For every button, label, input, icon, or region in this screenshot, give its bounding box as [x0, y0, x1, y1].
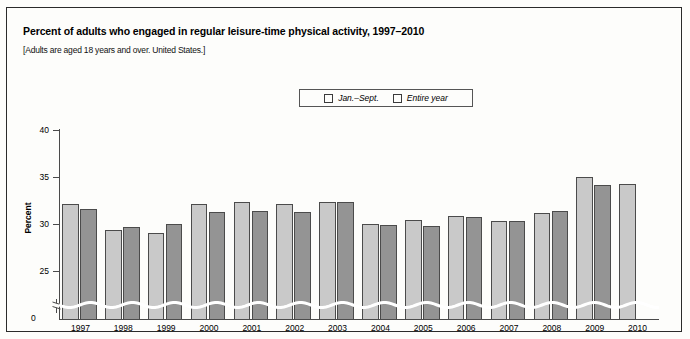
y-axis-title: Percent [23, 188, 33, 248]
x-axis-label-2002: 2002 [275, 323, 315, 333]
page-subtitle: [Adults are aged 18 years and over. Unit… [23, 45, 205, 55]
bar-2000-jan-sept [191, 204, 208, 320]
y-axis-tick-label: 25 [23, 267, 49, 275]
x-axis-label-2007: 2007 [489, 323, 529, 333]
bar-2010-jan-sept [619, 184, 636, 320]
legend-item-jan-sept: Jan.–Sept. [324, 93, 379, 103]
bar-1997-jan-sept [62, 204, 79, 320]
x-axis-label-2003: 2003 [318, 323, 358, 333]
y-axis-tick-label: 40 [23, 126, 49, 134]
y-axis-tick-label: 30 [23, 220, 49, 228]
bar-2001-jan-sept [234, 202, 251, 320]
bar-1999-jan-sept [148, 233, 165, 320]
legend-swatch-jan-sept [324, 94, 333, 103]
x-axis-label-2010: 2010 [618, 323, 658, 333]
legend-item-entire-year: Entire year [393, 93, 448, 103]
page-title: Percent of adults who engaged in regular… [23, 25, 424, 37]
plot-area [59, 126, 659, 320]
bar-2009-entire-year [594, 185, 611, 320]
bar-2006-entire-year [466, 217, 483, 320]
bar-2003-jan-sept [319, 202, 336, 320]
chart-frame: Percent of adults who engaged in regular… [6, 7, 682, 332]
bar-1999-entire-year [166, 224, 183, 320]
bar-2005-jan-sept [405, 220, 422, 320]
bar-2003-entire-year [337, 202, 354, 320]
x-axis-label-1997: 1997 [60, 323, 100, 333]
bar-2004-jan-sept [362, 224, 379, 320]
bar-2002-jan-sept [276, 204, 293, 320]
bar-1998-entire-year [123, 227, 140, 320]
bar-1997-entire-year [80, 209, 97, 320]
x-axis-label-2001: 2001 [232, 323, 272, 333]
x-axis-label-2000: 2000 [189, 323, 229, 333]
x-axis-label-2004: 2004 [360, 323, 400, 333]
x-axis-label-1999: 1999 [146, 323, 186, 333]
chart-legend: Jan.–Sept. Entire year [299, 89, 473, 107]
bar-2006-jan-sept [448, 216, 465, 320]
x-axis-label-2008: 2008 [532, 323, 572, 333]
x-axis-label-2009: 2009 [575, 323, 615, 333]
y-axis-zero-label: 0 [31, 313, 36, 323]
legend-label-jan-sept: Jan.–Sept. [338, 93, 379, 103]
bar-2000-entire-year [209, 212, 226, 320]
legend-label-entire-year: Entire year [407, 93, 448, 103]
bar-2008-jan-sept [534, 213, 551, 320]
x-axis-label-1998: 1998 [103, 323, 143, 333]
bar-2009-jan-sept [576, 177, 593, 320]
x-axis-label-2006: 2006 [446, 323, 486, 333]
bar-2002-entire-year [294, 212, 311, 320]
legend-swatch-entire-year [393, 94, 402, 103]
bar-2005-entire-year [423, 226, 440, 320]
bar-1998-jan-sept [105, 230, 122, 320]
chart-page: Percent of adults who engaged in regular… [0, 0, 690, 339]
y-axis-tick-label: 35 [23, 173, 49, 181]
x-axis-label-2005: 2005 [403, 323, 443, 333]
bar-2001-entire-year [252, 211, 269, 320]
bar-2008-entire-year [552, 211, 569, 320]
bar-2007-entire-year [509, 221, 526, 320]
bar-2007-jan-sept [491, 221, 508, 320]
bar-2004-entire-year [380, 225, 397, 320]
